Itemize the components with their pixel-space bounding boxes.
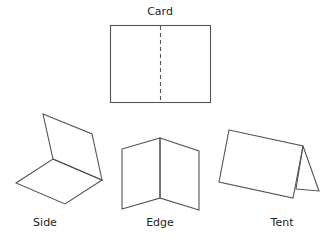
tent-fold-back-panel <box>296 146 319 191</box>
side-fold-base-panel <box>16 159 102 204</box>
flat-card <box>111 26 211 103</box>
card-label: Card <box>147 6 173 17</box>
edge-fold-left-panel <box>122 138 160 209</box>
side-fold-figure <box>16 114 102 204</box>
edge-fold-figure <box>122 138 199 210</box>
tent-fold-figure <box>219 130 319 198</box>
card-fold-diagram <box>0 0 333 240</box>
side-fold-upright-panel <box>43 114 102 180</box>
side-fold-label: Side <box>33 217 57 228</box>
tent-fold-label: Tent <box>271 217 294 228</box>
edge-fold-label: Edge <box>146 217 174 228</box>
edge-fold-right-panel <box>160 138 199 210</box>
tent-fold-front-panel <box>219 130 303 198</box>
